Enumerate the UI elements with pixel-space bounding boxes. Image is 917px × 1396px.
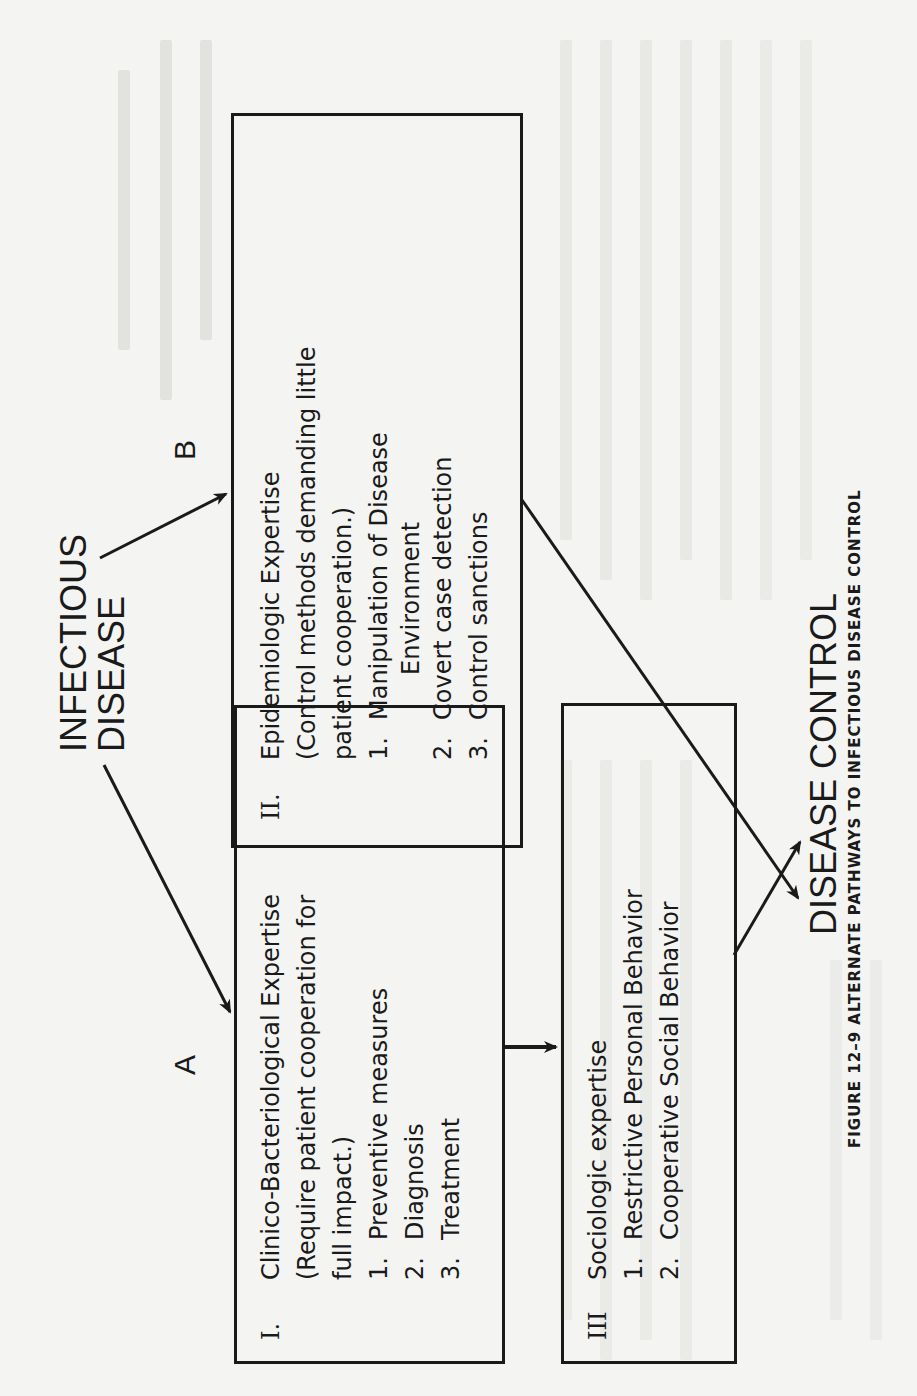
source-label-line-2: DISEASE — [93, 534, 131, 752]
box-two-heading-row: II.Epidemiologic Expertise — [253, 347, 289, 820]
box-two-numeral: II. — [253, 760, 289, 820]
box-two-subtitle: (Control methods demanding little — [289, 347, 325, 820]
arrow-epidemiologic-to-control — [522, 500, 798, 898]
box-three-heading-row: IIISociologic expertise — [580, 889, 616, 1340]
box-one-title: Clinico-Bacteriological Expertise — [257, 894, 285, 1280]
target-label: DISEASE CONTROL — [805, 593, 843, 935]
box-three-item-2: 2.Cooperative Social Behavior — [652, 889, 688, 1340]
box-two-item-3: 3.Control sanctions — [461, 347, 497, 820]
box-two-item-1-cont: Environment — [397, 347, 425, 820]
box-three-numeral: III — [580, 1280, 616, 1340]
figure-caption: FIGURE 12–9 ALTERNATE PATHWAYS TO INFECT… — [846, 489, 864, 1148]
box-two-item-2: 2.Covert case detection — [425, 347, 461, 820]
box-one-subtitle-2: full impact.) — [325, 894, 361, 1340]
arrow-sociologic-to-control — [734, 842, 800, 955]
path-label-a: A — [168, 1055, 202, 1075]
source-label: INFECTIOUS DISEASE — [55, 534, 131, 752]
source-label-line-1: INFECTIOUS — [55, 534, 93, 752]
box-two-item-1: 1.Manipulation of Disease — [361, 347, 397, 820]
arrow-infectious-to-clinico — [104, 765, 230, 1012]
box-three-content: IIISociologic expertise 1.Restrictive Pe… — [580, 889, 688, 1340]
box-one-item-2: 2.Diagnosis — [397, 894, 433, 1340]
path-label-b: B — [168, 440, 202, 460]
box-two-content: II.Epidemiologic Expertise (Control meth… — [253, 347, 497, 820]
box-two-subtitle-2: patient cooperation.) — [325, 347, 361, 820]
box-three-title: Sociologic expertise — [584, 1040, 612, 1280]
box-one-subtitle: (Require patient cooperation for — [289, 894, 325, 1340]
box-two-title: Epidemiologic Expertise — [257, 472, 285, 760]
box-one-content: I.Clinico-Bacteriological Expertise (Req… — [253, 894, 469, 1340]
box-one-item-1: 1.Preventive measures — [361, 894, 397, 1340]
box-one-numeral: I. — [253, 1280, 289, 1340]
box-three-item-1: 1.Restrictive Personal Behavior — [616, 889, 652, 1340]
box-one-heading-row: I.Clinico-Bacteriological Expertise — [253, 894, 289, 1340]
box-one-item-3: 3.Treatment — [433, 894, 469, 1340]
